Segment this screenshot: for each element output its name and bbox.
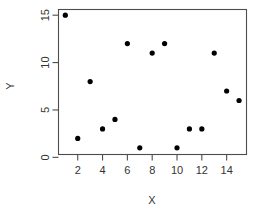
data-point [100, 126, 105, 131]
y-tick-label: 10 [40, 56, 52, 68]
x-tick-label: 4 [99, 164, 105, 176]
data-point [224, 88, 229, 93]
x-tick-label: 10 [171, 164, 183, 176]
plot-canvas: 2468101214 051015 X Y [0, 0, 263, 221]
data-point [63, 13, 68, 18]
data-point [125, 41, 130, 46]
data-point [187, 126, 192, 131]
data-point [199, 126, 204, 131]
data-point [162, 41, 167, 46]
scatter-plot-figure: 2468101214 051015 X Y [0, 0, 263, 221]
y-axis-title: Y [4, 82, 16, 90]
data-point [236, 98, 241, 103]
x-tick-label: 12 [196, 164, 208, 176]
x-tick-label: 2 [75, 164, 81, 176]
data-point [150, 50, 155, 55]
x-tick-label: 6 [124, 164, 130, 176]
data-point [88, 79, 93, 84]
data-point [75, 136, 80, 141]
data-point [212, 50, 217, 55]
x-tick-label: 14 [221, 164, 233, 176]
data-point [174, 145, 179, 150]
y-tick-label: 5 [40, 107, 52, 113]
data-point [112, 117, 117, 122]
x-axis-title: X [148, 194, 156, 206]
x-tick-label: 8 [149, 164, 155, 176]
y-tick-label: 0 [40, 154, 52, 160]
data-point [137, 145, 142, 150]
y-tick-label: 15 [40, 9, 52, 21]
